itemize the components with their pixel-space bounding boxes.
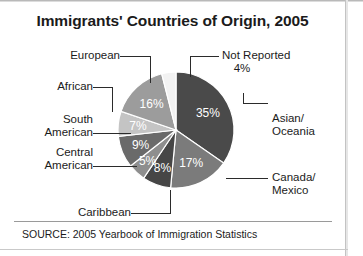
- leader-line-african: [93, 87, 112, 112]
- slice-value-canada-mexico: 17%: [179, 156, 203, 170]
- slice-value-south-american: 9%: [132, 138, 150, 152]
- slice-value-african: 7%: [129, 119, 147, 133]
- label-not-reported: Not Reported: [222, 49, 332, 63]
- source-note: SOURCE: 2005 Yearbook of Immigration Sta…: [22, 228, 257, 240]
- leader-line-european: [120, 56, 151, 83]
- label-canada-mexico-line1: Canada/: [272, 171, 352, 185]
- label-asian-oceania-line2: Oceania: [272, 125, 352, 139]
- slice-value-caribbean: 8%: [154, 161, 172, 175]
- leader-line-asian-oceania: [243, 93, 268, 103]
- label-central-american-line1: Central: [5, 146, 93, 160]
- label-south-american-line2: American: [5, 126, 93, 140]
- leader-line-caribbean: [131, 190, 170, 213]
- chart-figure: Immigrants' Countries of Origin, 2005 35…: [0, 0, 363, 256]
- label-canada-mexico-line2: Mexico: [272, 184, 352, 198]
- label-asian-oceania-line1: Asian/: [272, 112, 352, 126]
- label-caribbean: Caribbean: [40, 206, 131, 220]
- label-african: African: [5, 80, 93, 94]
- source-divider: [14, 221, 332, 222]
- label-south-american-line1: South: [5, 113, 93, 127]
- label-european: European: [20, 49, 120, 63]
- label-central-american-line2: American: [5, 159, 93, 173]
- slice-value-asian-oceania: 35%: [196, 106, 220, 120]
- label-not-reported-value: 4%: [212, 62, 272, 76]
- slice-value-european: 16%: [140, 97, 164, 111]
- slice-value-central-american: 5%: [139, 154, 157, 168]
